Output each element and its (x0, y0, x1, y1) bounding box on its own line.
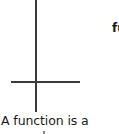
x-axis-line (11, 81, 80, 83)
caption-text: A function is a (1, 115, 89, 128)
caption-continuation-fragment (43, 131, 45, 134)
side-heading-fragment: fu (112, 22, 119, 34)
y-axis-line (35, 0, 37, 112)
